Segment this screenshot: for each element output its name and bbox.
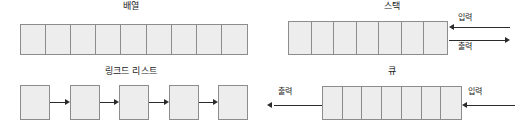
array-cell — [46, 25, 71, 54]
array-cells — [20, 24, 248, 55]
array-cell — [71, 25, 96, 54]
panel-linked-list: 링크드 리스트 — [0, 65, 262, 130]
queue-cell — [362, 87, 382, 119]
panel-queue: 큐 출력 입력 — [262, 65, 523, 130]
array-cell — [147, 25, 172, 54]
linked-list-node — [70, 85, 100, 120]
queue-input-arrow-icon — [462, 102, 467, 108]
linked-list-link-line — [149, 102, 164, 103]
array-title: 배열 — [0, 0, 262, 12]
stack-input-label: 입력 — [458, 13, 472, 23]
array-cell — [197, 25, 222, 54]
stack-input-arrow-icon — [449, 24, 454, 30]
stack-output-arrow-icon — [505, 37, 510, 43]
array-cell — [121, 25, 146, 54]
stack-cell — [312, 22, 335, 54]
queue-input-label: 입력 — [468, 87, 482, 97]
queue-cells — [322, 86, 462, 120]
stack-cell — [402, 22, 425, 54]
stack-cell — [334, 22, 357, 54]
linked-list-link-line — [50, 102, 65, 103]
linked-list-link-line — [199, 102, 214, 103]
stack-cell — [379, 22, 402, 54]
linked-list-node — [169, 85, 199, 120]
linked-list-link-line — [100, 102, 115, 103]
stack-title: 스택 — [262, 0, 523, 12]
queue-cell — [422, 87, 442, 119]
stack-output-arrow-line — [449, 40, 505, 41]
queue-cell — [382, 87, 402, 119]
panel-stack: 스택 입력 출력 — [262, 0, 523, 65]
queue-title: 큐 — [262, 65, 523, 77]
queue-cell — [402, 87, 422, 119]
queue-cell — [323, 87, 343, 119]
stack-input-arrow-line — [454, 27, 510, 28]
linked-list-nodes — [20, 85, 248, 120]
queue-input-arrow-line — [467, 105, 515, 106]
array-cell — [222, 25, 247, 54]
linked-list-node — [119, 85, 149, 120]
linked-list-node — [20, 85, 50, 120]
queue-output-arrow-line — [274, 105, 322, 106]
queue-output-label: 출력 — [278, 87, 292, 97]
array-cell — [21, 25, 46, 54]
stack-output-label: 출력 — [458, 42, 472, 52]
array-cell — [96, 25, 121, 54]
panel-array: 배열 — [0, 0, 262, 65]
array-cell — [172, 25, 197, 54]
queue-cell — [441, 87, 461, 119]
stack-cell — [357, 22, 380, 54]
stack-cells — [288, 21, 448, 55]
linked-list-node — [218, 85, 248, 120]
queue-cell — [343, 87, 363, 119]
stack-cell — [289, 22, 312, 54]
queue-output-arrow-icon — [267, 102, 272, 108]
linked-list-title: 링크드 리스트 — [0, 65, 262, 77]
stack-cell — [424, 22, 447, 54]
